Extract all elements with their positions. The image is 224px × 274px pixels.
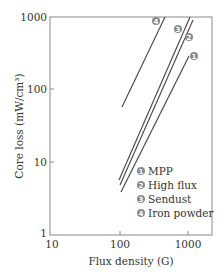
legend-item-mpp: 1 MPP bbox=[137, 165, 173, 177]
y-tick-1000: 1000 bbox=[20, 11, 47, 23]
line-iron-powder bbox=[122, 17, 165, 107]
svg-text:4: 4 bbox=[154, 18, 159, 26]
core-loss-chart: 1000 100 10 1 10 100 1000 Flux density (… bbox=[0, 0, 224, 274]
curve-marker-3: 3 bbox=[174, 25, 182, 34]
legend-label-high-flux: High flux bbox=[148, 179, 197, 191]
x-tick-10: 10 bbox=[45, 238, 58, 250]
y-tick-10: 10 bbox=[34, 156, 47, 168]
line-sendust bbox=[119, 17, 190, 180]
x-axis-ticks bbox=[120, 231, 188, 235]
y-axis-ticks bbox=[50, 89, 54, 162]
x-tick-100: 100 bbox=[110, 238, 130, 250]
svg-text:1: 1 bbox=[192, 53, 197, 61]
legend-item-high-flux: 2 High flux bbox=[137, 179, 197, 191]
x-tick-1000: 1000 bbox=[175, 238, 202, 250]
legend-item-iron-powder: 4 Iron powder bbox=[137, 207, 215, 219]
svg-text:2: 2 bbox=[139, 182, 144, 190]
y-axis-title: Core loss (mW/cm³) bbox=[13, 73, 25, 178]
legend-item-sendust: 3 Sendust bbox=[137, 193, 192, 205]
curve-marker-4: 4 bbox=[152, 17, 160, 26]
y-tick-100: 100 bbox=[27, 83, 47, 95]
svg-text:4: 4 bbox=[139, 210, 144, 218]
legend: 1 MPP 2 High flux 3 Sendust 4 Iron powde… bbox=[137, 165, 215, 219]
line-high-flux bbox=[120, 20, 193, 185]
legend-label-sendust: Sendust bbox=[148, 193, 192, 205]
svg-text:3: 3 bbox=[176, 26, 181, 34]
legend-label-iron-powder: Iron powder bbox=[148, 207, 215, 219]
svg-text:3: 3 bbox=[139, 196, 144, 204]
curve-marker-1: 1 bbox=[190, 52, 198, 61]
curve-marker-2: 2 bbox=[185, 33, 193, 42]
svg-text:2: 2 bbox=[187, 34, 192, 42]
svg-text:1: 1 bbox=[139, 168, 144, 176]
x-axis-title: Flux density (G) bbox=[88, 255, 173, 267]
legend-label-mpp: MPP bbox=[148, 165, 173, 177]
